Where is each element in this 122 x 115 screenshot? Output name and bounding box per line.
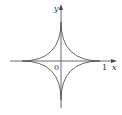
y-axis-arrow-icon xyxy=(59,4,63,10)
astroid-diagram: y 0 1 x xyxy=(0,0,122,115)
y-axis-label: y xyxy=(53,4,59,13)
x-tick-label: 1 xyxy=(102,63,107,72)
origin-label: 0 xyxy=(54,63,59,72)
x-axis-label: x xyxy=(112,63,117,72)
